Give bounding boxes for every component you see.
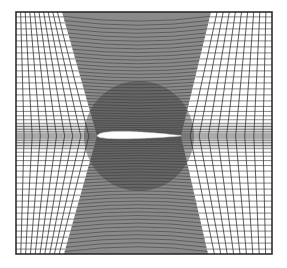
- mesh-figure: [0, 0, 287, 268]
- airfoil-mesh-diagram: [0, 0, 287, 268]
